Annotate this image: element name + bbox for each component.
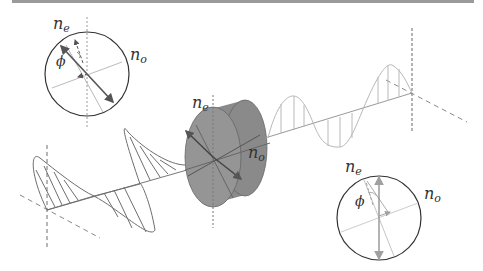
input-no-label: no [130,45,147,66]
top-rule [12,0,474,3]
output-phi-label: ϕ [355,193,365,209]
waveplate-diagram: ne no ϕ ne no [0,0,483,271]
output-polarization-inset: ϕ ne no [337,157,441,260]
output-no-label: no [424,184,441,205]
input-polarization-inset: ϕ ne no [45,14,147,128]
waveplate: ne no [185,93,270,228]
output-wave [265,28,467,147]
plate-ne-label: ne [192,93,209,114]
input-ne-label: ne [53,14,70,35]
output-ne-label: ne [345,157,362,178]
input-phi-label: ϕ [56,53,66,69]
